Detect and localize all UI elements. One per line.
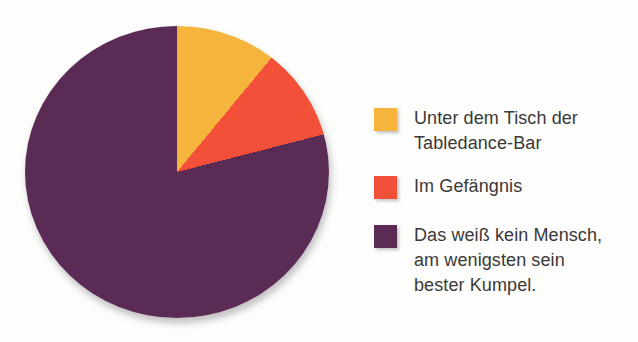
- pie-chart-figure: Unter dem Tisch der Tabledance-Bar Im Ge…: [0, 0, 638, 342]
- legend-swatch-yellow: [374, 108, 397, 131]
- legend-swatch-red: [374, 176, 397, 199]
- legend-label: Das weiß kein Mensch, am wenigsten sein …: [414, 223, 602, 298]
- pie-chart: [25, 26, 329, 318]
- legend-swatch-purple: [374, 225, 397, 248]
- legend-item-kein-mensch: Das weiß kein Mensch, am wenigsten sein …: [374, 225, 602, 298]
- legend-item-gefaengnis: Im Gefängnis: [374, 176, 522, 199]
- legend-item-tabledance-bar: Unter dem Tisch der Tabledance-Bar: [374, 108, 578, 156]
- legend-label: Im Gefängnis: [414, 174, 522, 199]
- legend-label: Unter dem Tisch der Tabledance-Bar: [414, 106, 578, 156]
